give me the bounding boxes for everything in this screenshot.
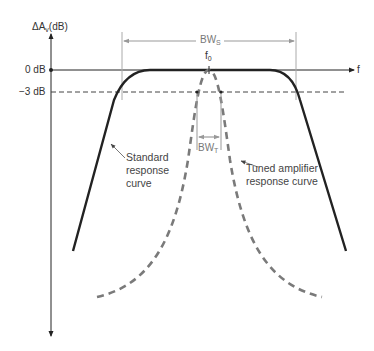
y-axis-label-main: ΔA: [32, 21, 45, 32]
bw-s-sub: S: [216, 39, 221, 46]
f0-sub: 0: [208, 55, 212, 62]
tuned-note-line1: Tuned amplifier: [246, 162, 318, 175]
standard-note-line3: curve: [126, 177, 169, 190]
bw-t-sub: T: [214, 147, 218, 154]
tuned-note-line2: response curve: [246, 175, 318, 188]
bw-s-label: BWS: [198, 35, 223, 46]
center-frequency-label: f0: [205, 51, 212, 62]
standard-curve-leader: [111, 144, 125, 158]
standard-response-curve: [73, 70, 346, 251]
tuned-curve-annotation: Tuned amplifier response curve: [246, 162, 318, 188]
bw-s-main: BW: [200, 34, 216, 45]
standard-curve-annotation: Standard response curve: [126, 151, 169, 190]
zero-db-label: 0 dB: [25, 65, 46, 75]
x-axis-label: f: [357, 65, 360, 75]
bw-t-label: BWT: [198, 143, 218, 154]
y-axis-label-unit: (dB): [49, 21, 68, 32]
minus3-db-label: −3 dB: [19, 87, 45, 97]
y-axis-label: ΔAv(dB): [32, 22, 68, 33]
standard-note-line2: response: [126, 164, 169, 177]
standard-note-line1: Standard: [126, 151, 169, 164]
bw-t-main: BW: [198, 142, 214, 153]
